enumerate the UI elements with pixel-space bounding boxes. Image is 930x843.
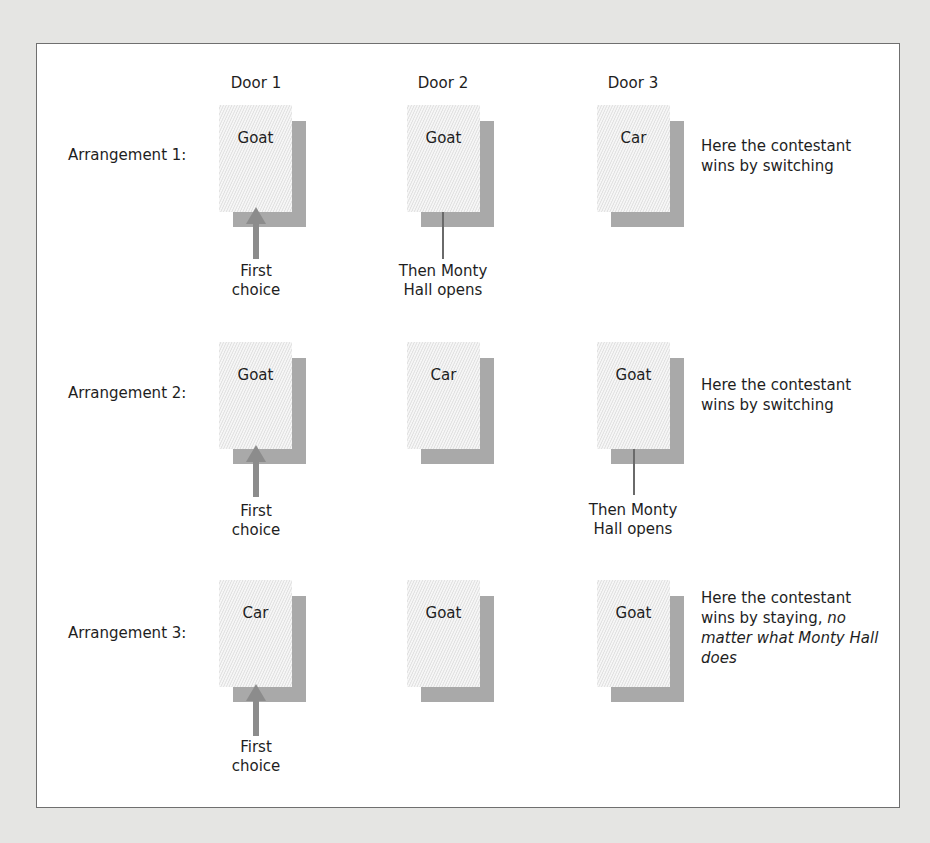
door-prize: Goat [407, 604, 480, 622]
door-panel [219, 342, 292, 449]
first-choice-arrow-icon [246, 684, 266, 736]
door-prize: Goat [597, 604, 670, 622]
door-1-header: Door 1 [206, 74, 306, 92]
door-prize: Car [407, 366, 480, 384]
arrangement-2-monty-opens-caption: Then Monty Hall opens [573, 501, 693, 539]
door-prize: Goat [597, 366, 670, 384]
caption-line: choice [196, 521, 316, 540]
door-panel [407, 580, 480, 687]
arrangement-1-door-2: Goat [407, 105, 494, 227]
note-text: Here the contestant wins by switching [701, 137, 851, 175]
caption-line: First [196, 262, 316, 281]
monty-opens-pointer-line [633, 449, 635, 495]
caption-line: First [196, 738, 316, 757]
arrangement-3-door-3: Goat [597, 580, 684, 702]
arrangement-1-door-3: Car [597, 105, 684, 227]
door-panel [597, 105, 670, 212]
note-text: Here the contestant wins by switching [701, 376, 851, 414]
door-prize: Goat [219, 129, 292, 147]
arrangement-2-first-choice-caption: First choice [196, 502, 316, 540]
caption-line: First [196, 502, 316, 521]
door-2-header: Door 2 [393, 74, 493, 92]
door-prize: Goat [219, 366, 292, 384]
door-panel [597, 342, 670, 449]
caption-line: choice [196, 757, 316, 776]
caption-line: Hall opens [383, 281, 503, 300]
caption-line: Then Monty [383, 262, 503, 281]
door-panel [407, 342, 480, 449]
arrangement-2-door-2: Car [407, 342, 494, 464]
first-choice-arrow-icon [246, 207, 266, 259]
caption-line: choice [196, 281, 316, 300]
caption-line: Then Monty [573, 501, 693, 520]
first-choice-arrow-icon [246, 445, 266, 497]
monty-opens-pointer-line [442, 212, 444, 259]
arrangement-2-door-3: Goat [597, 342, 684, 464]
arrangement-2-note: Here the contestant wins by switching [701, 375, 886, 415]
door-3-header: Door 3 [583, 74, 683, 92]
arrangement-1-label: Arrangement 1: [68, 146, 186, 164]
arrangement-3-note: Here the contestant wins by staying, no … [701, 588, 886, 668]
arrangement-3-first-choice-caption: First choice [196, 738, 316, 776]
door-panel [597, 580, 670, 687]
arrangement-1-note: Here the contestant wins by switching [701, 136, 886, 176]
arrangement-2-label: Arrangement 2: [68, 384, 186, 402]
arrangement-1-first-choice-caption: First choice [196, 262, 316, 300]
door-prize: Car [597, 129, 670, 147]
door-panel [219, 105, 292, 212]
door-panel [407, 105, 480, 212]
arrangement-3-label: Arrangement 3: [68, 624, 186, 642]
arrangement-1-monty-opens-caption: Then Monty Hall opens [383, 262, 503, 300]
door-panel [219, 580, 292, 687]
door-prize: Goat [407, 129, 480, 147]
caption-line: Hall opens [573, 520, 693, 539]
door-prize: Car [219, 604, 292, 622]
arrangement-3-door-2: Goat [407, 580, 494, 702]
